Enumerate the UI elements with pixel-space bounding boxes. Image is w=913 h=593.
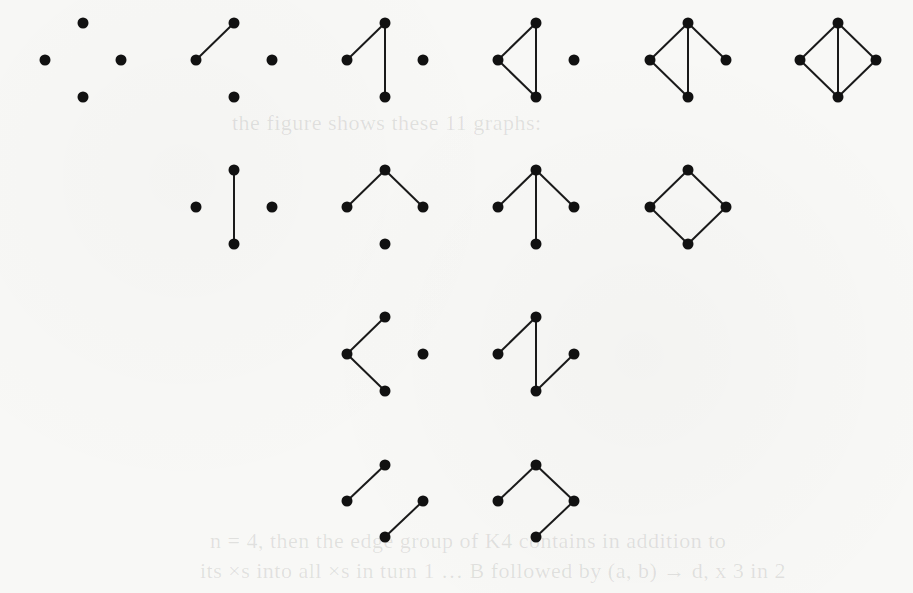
edge-left-bottom: [347, 354, 385, 391]
vertex-bottom: [833, 92, 844, 103]
edge-top-left: [347, 170, 385, 207]
vertex-top: [531, 18, 542, 29]
vertex-top: [683, 165, 694, 176]
graph-g6: [795, 18, 882, 103]
vertex-left: [40, 55, 51, 66]
vertex-top: [531, 460, 542, 471]
vertex-left: [493, 202, 504, 213]
vertex-bottom: [531, 92, 542, 103]
edge-left-top: [498, 465, 536, 501]
graph-g4: [493, 18, 580, 103]
vertex-top: [531, 165, 542, 176]
edge-top-right: [536, 465, 574, 501]
vertex-right: [418, 349, 429, 360]
edge-left-top: [498, 317, 536, 354]
vertex-right: [418, 55, 429, 66]
edge-right-bottom: [838, 60, 876, 97]
vertex-left: [191, 202, 202, 213]
edge-top-right: [536, 170, 574, 207]
vertex-right: [267, 202, 278, 213]
vertex-right: [418, 202, 429, 213]
edge-top-left: [498, 170, 536, 207]
edge-bottom-right: [536, 354, 574, 391]
graph-g3: [342, 18, 429, 103]
vertex-left: [342, 202, 353, 213]
vertex-bottom: [531, 239, 542, 250]
vertex-top: [380, 460, 391, 471]
vertex-bottom: [229, 92, 240, 103]
edge-left-top: [498, 23, 536, 60]
vertex-right: [569, 55, 580, 66]
edge-left-bottom: [498, 60, 536, 97]
edge-top-right: [838, 23, 876, 60]
vertex-bottom: [229, 239, 240, 250]
edge-left-top: [347, 23, 385, 60]
edge-top-right: [688, 170, 726, 207]
vertex-right: [569, 202, 580, 213]
edge-bottom-right: [385, 501, 423, 537]
vertex-top: [683, 18, 694, 29]
vertex-left: [645, 55, 656, 66]
edge-top-right: [688, 23, 726, 60]
edge-left-bottom: [650, 60, 688, 97]
edge-left-top: [650, 23, 688, 60]
vertex-top: [229, 18, 240, 29]
graph-g1: [40, 18, 127, 103]
vertex-bottom: [683, 239, 694, 250]
vertex-right: [569, 349, 580, 360]
vertex-bottom: [380, 386, 391, 397]
vertex-right: [267, 55, 278, 66]
graph-diagram: [0, 0, 913, 593]
vertex-top: [78, 18, 89, 29]
vertex-bottom: [380, 239, 391, 250]
vertex-top: [380, 165, 391, 176]
edge-top-left: [650, 170, 688, 207]
vertex-left: [342, 496, 353, 507]
vertex-left: [342, 349, 353, 360]
graph-g8: [342, 165, 429, 250]
vertex-bottom: [531, 532, 542, 543]
vertex-bottom: [531, 386, 542, 397]
graph-g13: [342, 460, 429, 543]
graph-g12: [493, 312, 580, 397]
graph-g14: [493, 460, 580, 543]
vertex-left: [342, 55, 353, 66]
edge-right-bottom: [536, 501, 574, 537]
vertex-left: [493, 349, 504, 360]
vertex-left: [493, 55, 504, 66]
edge-top-right: [385, 170, 423, 207]
vertex-bottom: [380, 92, 391, 103]
graph-g11: [342, 312, 429, 397]
vertex-left: [493, 496, 504, 507]
vertex-right: [569, 496, 580, 507]
graph-g2: [191, 18, 278, 103]
edge-left-bottom: [800, 60, 838, 97]
vertex-top: [229, 165, 240, 176]
graph-g10: [645, 165, 732, 250]
graph-g5: [645, 18, 732, 103]
vertex-left: [191, 55, 202, 66]
graph-g7: [191, 165, 278, 250]
vertex-right: [116, 55, 127, 66]
vertex-top: [380, 18, 391, 29]
vertex-right: [418, 496, 429, 507]
edge-left-top: [347, 465, 385, 501]
edge-right-bottom: [688, 207, 726, 244]
vertex-bottom: [380, 532, 391, 543]
edge-left-top: [196, 23, 234, 60]
vertex-left: [795, 55, 806, 66]
vertex-bottom: [78, 92, 89, 103]
vertex-right: [721, 202, 732, 213]
edge-left-bottom: [650, 207, 688, 244]
graph-g9: [493, 165, 580, 250]
vertex-top: [531, 312, 542, 323]
vertex-right: [721, 55, 732, 66]
edge-left-top: [347, 317, 385, 354]
vertex-left: [645, 202, 656, 213]
vertex-top: [380, 312, 391, 323]
edge-left-top: [800, 23, 838, 60]
vertex-right: [871, 55, 882, 66]
vertex-bottom: [683, 92, 694, 103]
vertex-top: [833, 18, 844, 29]
figure-page: the figure shows these 11 graphs: n = 4,…: [0, 0, 913, 593]
